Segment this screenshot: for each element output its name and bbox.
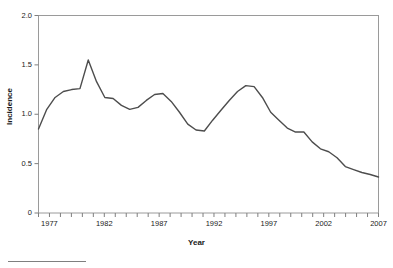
y-axis-ticks [35,16,39,214]
y-tick-label-4: 0 [10,208,32,217]
x-tick-label-1: 1982 [89,219,119,228]
y-tick-label-0: 2.0 [10,11,32,20]
x-axis-label: Year [0,238,393,247]
plot-frame [39,16,379,214]
x-tick-label-6: 2007 [364,219,393,228]
x-axis-ticks [39,213,379,217]
x-tick-label-3: 1992 [199,219,229,228]
y-tick-label-2: 1.0 [10,109,32,118]
x-tick-label-0: 1977 [34,219,64,228]
y-axis-label: Incidence [5,88,14,125]
footer-divider [8,261,86,262]
y-tick-label-1: 1.5 [10,60,32,69]
x-tick-label-4: 1997 [254,219,284,228]
chart-figure: Incidence Year 2.01.51.00.50 19771982198… [0,0,393,268]
y-axis-label-wrapper: Incidence [2,0,16,213]
x-tick-label-2: 1987 [144,219,174,228]
x-tick-label-5: 2002 [309,219,339,228]
y-tick-label-3: 0.5 [10,159,32,168]
